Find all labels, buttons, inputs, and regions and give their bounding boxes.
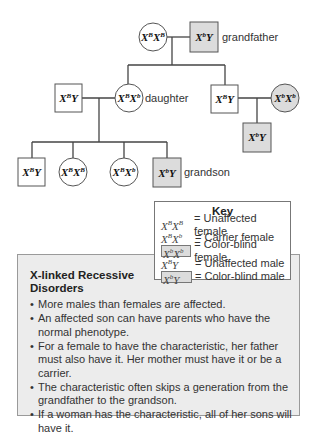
daughter-label: daughter [145, 92, 189, 104]
info-bullet: The characteristic often skips a generat… [30, 381, 292, 408]
gen3-child-3: XBXb [110, 158, 138, 186]
key-symbol-shaded: XbY [161, 271, 192, 283]
grandfather-label: grandfather [222, 31, 279, 43]
gen3-child-2: XBXB [59, 158, 87, 186]
key-symbol: XBY [161, 256, 195, 272]
gen3-child-1: XBY [18, 158, 45, 186]
info-bullet: More males than females are affected. [30, 298, 292, 312]
gen2-daughter-in-law: XbXb [271, 84, 299, 112]
gen3-grandson: XbY grandson [153, 158, 230, 187]
info-bullet: An affected son can have parents who hav… [30, 312, 292, 339]
key-legend: Key XBXB = Unaffected female XBXb = Carr… [154, 201, 291, 280]
key-symbol: XBXb [161, 230, 195, 246]
gen3-right-grandson: XbY [243, 123, 271, 152]
key-row-unaffected-male: XBY = Unaffected male [155, 257, 290, 270]
gen1-father-grandfather: XbY grandfather [190, 22, 279, 52]
info-title: X-linked Recessive Disorders [30, 269, 150, 295]
key-row-colorblind-male: XbY = Color-blind male [155, 270, 290, 283]
gen2-daughter: XBXb daughter [115, 84, 189, 112]
gen1-mother: XBXB [139, 23, 167, 51]
grandson-label: grandson [184, 166, 230, 178]
info-bullet: For a female to have the characteristic,… [30, 340, 292, 381]
info-bullet: If a woman has the characteristic, all o… [30, 408, 292, 435]
info-bullet-list: More males than females are affected. An… [30, 298, 292, 436]
gen2-son-in-law: XBY [55, 84, 82, 112]
gen2-son: XBY [211, 85, 238, 113]
